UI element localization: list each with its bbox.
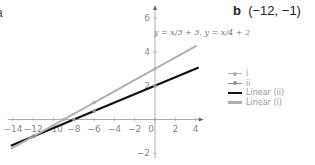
line-swatch-icon <box>228 98 242 106</box>
legend-label: Linear (ii) <box>246 88 284 97</box>
x-tick-label: −14 <box>3 124 22 134</box>
legend-label: ii <box>246 79 250 88</box>
legend-item: Linear (ii) <box>228 88 284 98</box>
legend-item: Linear (i) <box>228 98 284 108</box>
data-point-i <box>62 118 66 122</box>
x-tick-label: 2 <box>172 124 178 134</box>
legend-item: ii <box>228 79 284 89</box>
legend: iiiLinear (ii)Linear (i) <box>228 69 284 107</box>
x-tick-label: −2 <box>128 124 141 134</box>
data-point-i <box>92 101 96 105</box>
y-tick-label: 4 <box>144 47 150 57</box>
marker-swatch-icon <box>228 70 242 78</box>
x-axis-arrow-icon <box>199 118 204 122</box>
y-tick-label: 6 <box>144 13 150 23</box>
y-axis-arrow-icon <box>153 5 157 10</box>
equation-annotation: y = x/3 + 3, y = x/4 + 2 <box>153 28 250 37</box>
data-point-ii <box>153 84 157 88</box>
data-point-i <box>153 67 157 71</box>
data-point-ii <box>72 118 76 122</box>
y-tick-label: −2 <box>137 148 150 158</box>
x-tick-label: −8 <box>67 124 81 134</box>
legend-item: i <box>228 69 284 79</box>
x-tick-label: 4 <box>193 124 199 134</box>
marker-swatch-icon <box>228 79 242 87</box>
data-point-ii <box>92 109 96 113</box>
data-point-ii <box>31 135 35 139</box>
line-swatch-icon <box>228 89 242 97</box>
x-tick-label: 0 <box>148 124 154 134</box>
trendline-linear-i- <box>11 46 197 149</box>
legend-label: Linear (i) <box>246 98 282 107</box>
legend-label: i <box>246 69 248 78</box>
x-tick-label: −6 <box>87 124 101 134</box>
x-tick-label: −4 <box>108 124 122 134</box>
